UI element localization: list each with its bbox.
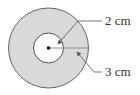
label-ring-width: 3 cm [105, 64, 131, 79]
center-point [47, 46, 51, 50]
concentric-circles-diagram: 2 cm 3 cm [0, 0, 140, 95]
label-inner-radius: 2 cm [105, 13, 131, 28]
